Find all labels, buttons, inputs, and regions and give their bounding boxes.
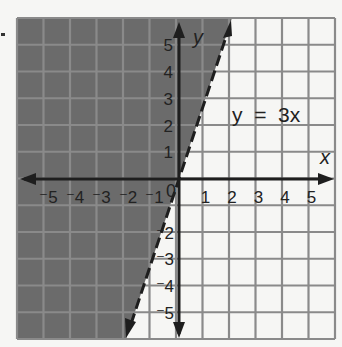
y-tick-label: 1 bbox=[164, 143, 173, 162]
y-tick-label: ⁻3 bbox=[156, 250, 174, 269]
x-axis-label: x bbox=[319, 146, 331, 168]
y-axis-label: y bbox=[191, 26, 204, 48]
x-tick-label: 2 bbox=[227, 188, 236, 207]
x-tick-label: 4 bbox=[280, 188, 289, 207]
x-tick-label: ⁻5 bbox=[39, 188, 57, 207]
y-tick-label: 3 bbox=[164, 90, 173, 109]
x-tick-label: ⁻1 bbox=[145, 188, 163, 207]
y-axis-down-arrow-icon bbox=[173, 322, 185, 338]
y-tick-label: 5 bbox=[164, 36, 173, 55]
y-tick-label: ⁻2 bbox=[156, 224, 174, 243]
x-axis-right-arrow-icon bbox=[318, 173, 334, 185]
y-tick-label: ⁻4 bbox=[156, 277, 174, 296]
x-tick-label: ⁻2 bbox=[119, 188, 137, 207]
equation-label: y = 3x bbox=[232, 103, 301, 126]
x-tick-label: ⁻4 bbox=[66, 188, 84, 207]
x-tick-label: 3 bbox=[254, 188, 263, 207]
y-tick-label: ⁻5 bbox=[156, 304, 174, 323]
x-tick-label: ⁻3 bbox=[92, 188, 110, 207]
y-tick-label: 2 bbox=[164, 117, 173, 136]
origin-label: 0 bbox=[166, 181, 176, 201]
x-tick-label: 5 bbox=[307, 188, 316, 207]
bullet-mark bbox=[1, 33, 5, 36]
y-tick-label: 4 bbox=[164, 63, 173, 82]
x-tick-label: 1 bbox=[201, 188, 210, 207]
coordinate-graph: ⁻5⁻4⁻3⁻2⁻112345 54321⁻2⁻3⁻4⁻5 0 y x y = … bbox=[0, 0, 342, 347]
line-down-arrow-icon bbox=[125, 318, 136, 338]
